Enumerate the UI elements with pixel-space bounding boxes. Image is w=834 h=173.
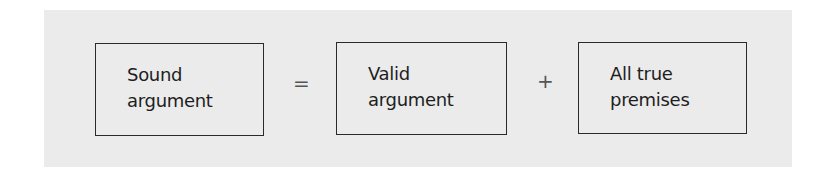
box-label-line1: Sound <box>127 62 213 88</box>
box-label: Valid argument <box>368 61 454 113</box>
box-label-line2: argument <box>127 88 213 114</box>
box-all-true-premises: All true premises <box>578 42 747 134</box>
box-label-line1: All true <box>610 61 689 87</box>
box-valid-argument: Valid argument <box>336 42 507 135</box>
box-label: Sound argument <box>127 62 213 114</box>
equals-sign: = <box>293 73 310 93</box>
box-sound-argument: Sound argument <box>95 43 264 136</box>
box-label-line2: argument <box>368 87 454 113</box>
plus-sign: + <box>537 71 554 91</box>
box-label-line2: premises <box>610 87 689 113</box>
box-label-line1: Valid <box>368 61 454 87</box>
box-label: All true premises <box>610 61 689 113</box>
